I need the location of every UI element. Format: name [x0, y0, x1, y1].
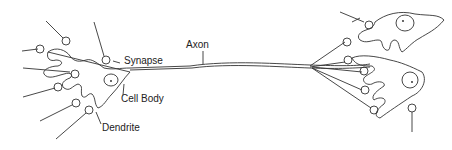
synapse-leader-line — [113, 61, 120, 63]
leader-lines — [0, 0, 452, 150]
neuron-diagram: Axon Synapse Cell Body Dendrite — [0, 0, 452, 150]
label-dendrite: Dendrite — [102, 123, 140, 133]
label-synapse: Synapse — [124, 56, 163, 66]
label-cell-body: Cell Body — [121, 94, 164, 104]
dendrite-leader-line — [96, 112, 101, 124]
